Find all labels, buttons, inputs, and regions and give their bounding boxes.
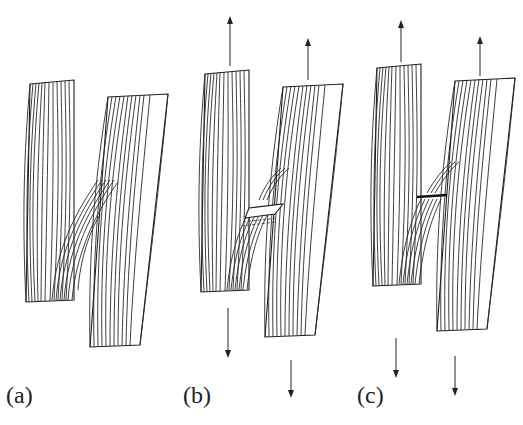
panel-c: (c): [345, 0, 523, 425]
tension-arrow-top-left: [398, 20, 404, 62]
tension-arrow-bottom-right: [288, 360, 294, 398]
tension-arrow-top-left: [227, 16, 233, 66]
panel-b: (b): [175, 0, 350, 425]
panel-label-c: (c): [357, 383, 384, 407]
lamellar-bundle-diagram-c: [345, 0, 523, 425]
tension-arrow-top-right: [305, 38, 311, 80]
panel-a: (a): [0, 0, 175, 425]
panel-label-a: (a): [6, 383, 33, 407]
panel-label-b: (b): [183, 383, 211, 407]
tension-arrow-bottom-left: [225, 308, 231, 358]
tension-arrow-top-right: [477, 36, 483, 76]
tension-arrow-bottom-left: [393, 338, 399, 378]
tension-arrow-bottom-right: [452, 356, 458, 396]
lamellar-bundle-diagram-a: [0, 0, 175, 425]
lamellar-bundle-diagram-b: [175, 0, 350, 425]
